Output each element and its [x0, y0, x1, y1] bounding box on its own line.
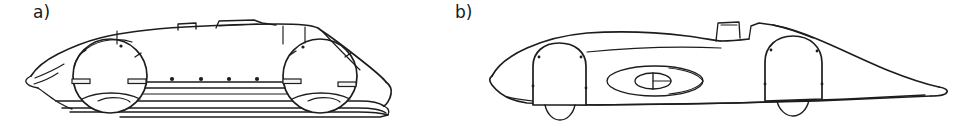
rivet [170, 77, 174, 81]
rear-axle-bar-left-a [283, 79, 301, 84]
fastener [585, 87, 588, 90]
rivet [227, 77, 231, 81]
front-fairing-tyre-b [545, 105, 575, 120]
figure-panel-b: b) [487, 0, 977, 129]
rivet [255, 77, 259, 81]
tail-point-b [931, 87, 947, 96]
rear-wheel-fairing-b [765, 36, 822, 101]
fastener [538, 56, 541, 59]
body-crease-b [587, 47, 721, 52]
fastener [816, 50, 819, 53]
rear-axle-bar-right-a [338, 82, 356, 87]
front-wheel-fairing-b [533, 43, 586, 105]
front-axle-bar-right-a [128, 79, 146, 84]
nose-crease2-a [34, 73, 58, 84]
cockpit-roofline-b [721, 39, 749, 41]
vehicle-drawing-a [0, 0, 490, 129]
fastener [821, 83, 824, 86]
fastener [532, 85, 535, 88]
fastener [770, 49, 773, 52]
figure-panel-a: a) [0, 0, 490, 129]
front-axle-bar-left-a [72, 79, 90, 84]
fastener [580, 56, 583, 59]
rear-hub-stud-a [301, 45, 304, 48]
nose-lower-outline-a [38, 88, 72, 109]
tail-outline-a [384, 82, 391, 106]
figure-root: a) [0, 0, 977, 129]
side-vent-inner-taper-b [669, 68, 703, 94]
fastener [764, 83, 767, 86]
rear-wheel-a [283, 39, 357, 113]
vehicle-drawing-b [487, 0, 977, 129]
rivet [199, 77, 203, 81]
front-hub-stud-a [119, 44, 122, 47]
panel-b-label: b) [455, 4, 472, 21]
